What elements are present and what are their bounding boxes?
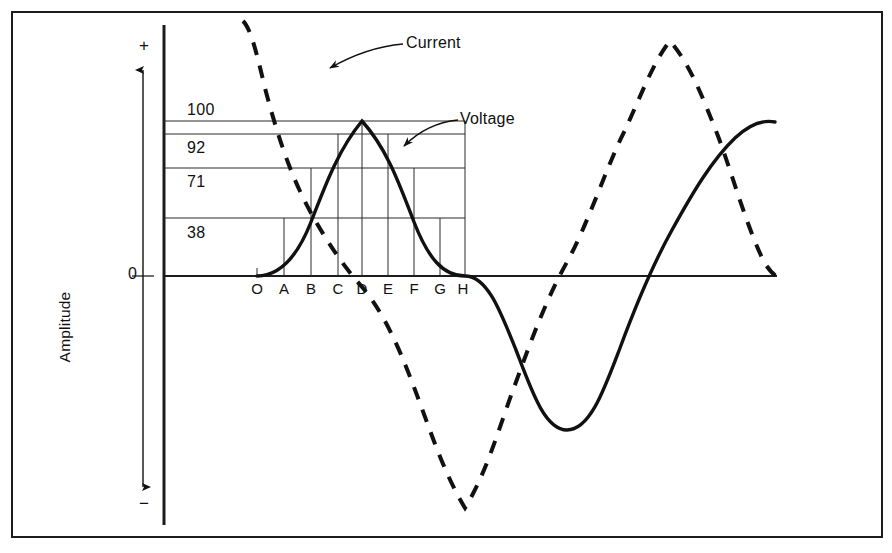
x-tick-label-g: G (431, 280, 449, 297)
x-tick-label-d: D (353, 280, 371, 297)
x-tick-label-e: E (379, 280, 397, 297)
grid-value-38: 38 (187, 224, 205, 242)
grid-value-71: 71 (187, 173, 205, 191)
grid-value-92: 92 (187, 139, 205, 157)
y-axis-zero-label: 0 (128, 265, 137, 283)
x-tick-label-h: H (454, 280, 472, 297)
x-tick-label-f: F (405, 280, 423, 297)
amplitude-gridlines (164, 121, 465, 218)
sample-gridlines (284, 121, 465, 276)
figure-canvas: Amplitude + − 0 100 92 71 38 O A B C D E… (0, 0, 892, 553)
x-tick-label-o: O (248, 280, 266, 297)
x-tick-label-b: B (302, 280, 320, 297)
current-annotation-label: Current (406, 34, 461, 52)
y-axis-title: Amplitude (56, 257, 74, 397)
y-axis-negative-sign: − (134, 494, 154, 514)
y-axis-positive-sign: + (134, 36, 154, 56)
current-waveform (243, 21, 776, 508)
grid-value-100: 100 (187, 101, 215, 119)
current-leader-line (330, 44, 403, 68)
x-tick-label-a: A (275, 280, 293, 297)
voltage-annotation-label: Voltage (460, 110, 515, 128)
voltage-leader-line (404, 120, 458, 146)
x-tick-label-c: C (329, 280, 347, 297)
